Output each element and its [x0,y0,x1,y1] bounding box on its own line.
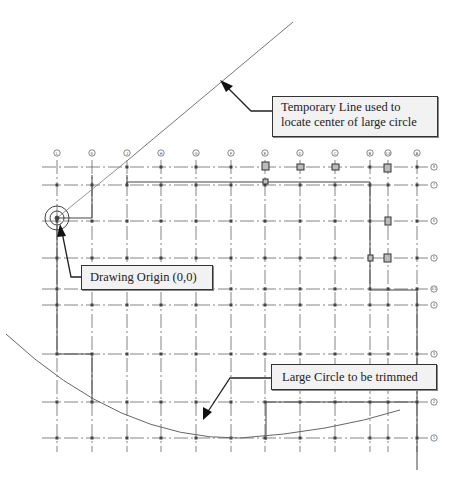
callout-line-2: locate center of large circle [281,115,429,130]
column-marker [91,437,94,440]
column-marker [56,304,59,307]
grid-row-label: 2 [433,400,435,404]
grid-row-label: 7 [433,183,435,187]
column-marker [160,166,163,169]
column-marker [160,401,163,404]
column-marker [195,353,198,356]
column-marker [230,166,233,169]
column-marker [369,304,372,307]
column-marker [334,220,337,223]
column-marker [56,184,59,187]
column-marker [387,304,390,307]
grid-row-label: 4.5 [432,287,437,291]
grid-row-label: 4 [433,303,435,307]
column-marker [91,257,94,260]
column-marker [126,437,129,440]
column-marker [195,220,198,223]
callout-text: Large Circle to be trimmed [282,370,418,384]
grid-row-label: 6 [433,219,435,223]
column-marker [230,220,233,223]
grid-row-label: 8 [433,165,435,169]
column-marker [126,220,129,223]
column-marker [334,401,337,404]
column-marker [334,304,337,307]
column-marker [299,304,302,307]
column-marker [369,220,372,223]
column-marker [230,288,233,291]
column-marker [416,166,419,169]
grid-column-label: L [56,152,58,156]
callout-line-1: Temporary Line used to [281,100,429,115]
callout-drawing-origin: Drawing Origin (0,0) [81,265,213,290]
column-marker [416,304,419,307]
column-marker [334,184,337,187]
column-marker [369,288,372,291]
column-marker [369,401,372,404]
arrowheads [57,80,233,420]
column-marker [264,220,267,223]
column-marker [416,288,419,291]
column-marker [387,353,390,356]
column-marker [416,220,419,223]
grid-lines: LKJHGFEDCB5.8A87654.54321 [42,150,437,452]
column-marker [56,401,59,404]
floor-plan-drawing: LKJHGFEDCB5.8A87654.54321 [0,0,471,484]
callout-temporary-line: Temporary Line used to locate center of … [272,96,438,137]
column-marker [334,288,337,291]
column-marker [369,184,372,187]
column-marker [387,288,390,291]
column-marker [369,353,372,356]
column-marker [56,257,59,260]
temporary-line [128,22,293,160]
grid-row-label: 5 [433,256,435,260]
column-marker [416,353,419,356]
column-marker [126,353,129,356]
column-marker [56,437,59,440]
arrow-icon [57,224,66,237]
grid-column-label: 5.8 [386,152,391,156]
column-marker [230,184,233,187]
grid-column-label: G [195,152,198,156]
arrow-icon [203,407,212,420]
grid-column-label: J [126,152,128,156]
column-marker [299,184,302,187]
column-marker [195,401,198,404]
building-outline [57,175,417,470]
column-marker [126,257,129,260]
column-marker [160,437,163,440]
column-marker [299,353,302,356]
grid-column-label: F [230,152,232,156]
column-marker [91,401,94,404]
column-marker [264,353,267,356]
column-marker [369,437,372,440]
column-marker [299,437,302,440]
column-marker [230,257,233,260]
column-marker [334,437,337,440]
column-marker [230,304,233,307]
column-marker [160,304,163,307]
column-marker [416,257,419,260]
column-marker [299,401,302,404]
column-marker [264,401,267,404]
column-marker [195,166,198,169]
column-marker [369,166,372,169]
column-marker [91,353,94,356]
column-marker [334,257,337,260]
column-marker [126,166,129,169]
callout-large-circle: Large Circle to be trimmed [271,364,437,390]
column-markers [56,166,419,440]
column-marker [195,304,198,307]
callout-text: Drawing Origin (0,0) [90,270,197,284]
leader-lines [62,86,272,413]
column-marker [91,220,94,223]
column-marker [299,257,302,260]
column-marker [160,257,163,260]
structural-boxes [262,162,391,262]
column-marker [416,401,419,404]
column-marker [264,437,267,440]
column-marker [230,401,233,404]
column-marker [126,401,129,404]
column-marker [56,353,59,356]
column-marker [299,220,302,223]
column-marker [230,353,233,356]
